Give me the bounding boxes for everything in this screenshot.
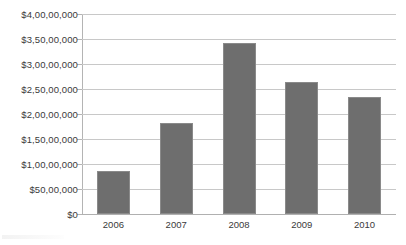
y-axis-labels: $0$50,00,000$1,00,00,000$1,50,00,000$2,0… [0,14,78,214]
axis-baseline [82,214,396,215]
gridline [82,14,396,15]
bar [223,43,256,215]
bar [285,82,318,215]
gridline [82,39,396,40]
y-tick-label: $0 [2,209,78,220]
y-tick-label: $1,50,00,000 [2,134,78,145]
bar [97,171,130,215]
bar [348,97,381,215]
plot-area [82,14,396,214]
y-tick-label: $50,00,000 [2,184,78,195]
x-tick-label: 2007 [166,219,187,230]
y-tick-label: $2,50,00,000 [2,84,78,95]
scan-artifact [2,235,64,239]
y-tick-label: $1,00,00,000 [2,159,78,170]
y-tick-label: $4,00,00,000 [2,9,78,20]
x-tick-label: 2006 [103,219,124,230]
bar-chart: $0$50,00,000$1,00,00,000$1,50,00,000$2,0… [0,0,406,245]
x-tick-label: 2008 [228,219,249,230]
y-tick-label: $3,00,00,000 [2,59,78,70]
x-axis-labels: 20062007200820092010 [82,219,396,235]
bar [160,123,193,214]
x-tick-label: 2009 [291,219,312,230]
y-tick-label: $2,00,00,000 [2,109,78,120]
y-tick-label: $3,50,00,000 [2,34,78,45]
x-tick-label: 2010 [354,219,375,230]
